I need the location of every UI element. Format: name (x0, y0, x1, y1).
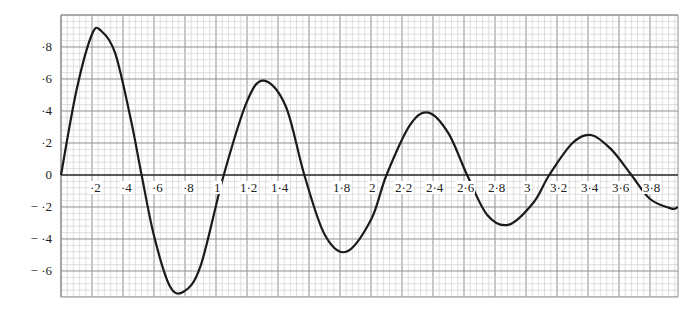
x-tick-label: 3·2 (549, 181, 568, 194)
x-tick-label: 1·4 (270, 181, 289, 194)
y-tick-label: ·8 (41, 40, 52, 53)
x-tick-label: ·2 (89, 181, 102, 194)
x-tick-label: 1·8 (332, 181, 351, 194)
y-tick-label: ·2 (41, 136, 52, 149)
x-tick-label: 1 (213, 181, 222, 194)
y-tick-label: ·4 (41, 104, 52, 117)
x-tick-label: ·6 (151, 181, 164, 194)
chart-plot-area (0, 0, 692, 323)
y-tick-label: − ·4 (31, 232, 52, 245)
x-tick-label: 3·4 (580, 181, 599, 194)
y-tick-label: − ·2 (31, 200, 52, 213)
y-tick-label: − ·6 (31, 264, 52, 277)
x-tick-label: 2·2 (394, 181, 413, 194)
y-tick-label: ·6 (41, 72, 52, 85)
x-tick-label: ·4 (120, 181, 133, 194)
x-tick-label: 1·2 (239, 181, 258, 194)
x-tick-label: 3 (523, 181, 532, 194)
x-tick-label: 3·8 (642, 181, 661, 194)
graph-paper-grid (61, 15, 678, 297)
y-tick-label: 0 (46, 168, 53, 181)
x-tick-label: 2·8 (487, 181, 506, 194)
x-tick-label: 2·4 (425, 181, 444, 194)
x-tick-label: ·8 (182, 181, 195, 194)
x-tick-label: 2·6 (456, 181, 475, 194)
x-tick-label: 2 (368, 181, 377, 194)
x-tick-label: 3·6 (611, 181, 630, 194)
